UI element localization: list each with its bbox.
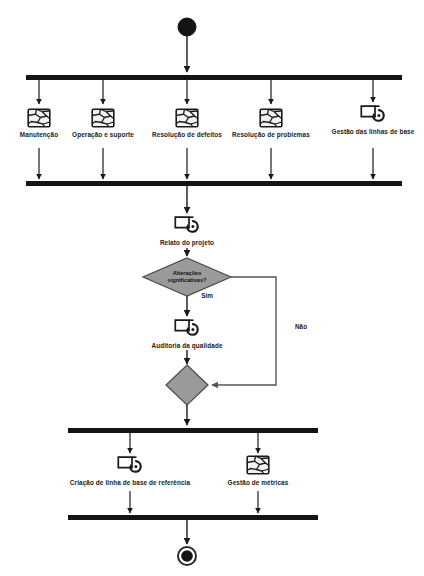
flow-decision-nao <box>212 277 276 385</box>
activity-label-operacao-suporte: Operação e suporte <box>72 131 134 139</box>
activity-diagram-canvas: Manutenção Operação e suporte Resolução … <box>0 0 424 576</box>
process-map-icon[interactable] <box>260 109 282 127</box>
fork-bar-lower <box>68 428 318 433</box>
activity-label-resolucao-defeitos: Resolução de defeitos <box>152 131 222 139</box>
activity-label-auditoria-qualidade: Auditoria da qualidade <box>151 342 222 350</box>
baseline-cycle-icon[interactable] <box>175 320 197 335</box>
edge-label-sim: Sim <box>201 292 213 299</box>
start-node <box>178 18 196 36</box>
baseline-cycle-icon[interactable] <box>175 217 197 232</box>
activity-label-criacao-linha-base: Criação de linha de base de referência <box>70 479 190 487</box>
decision-node[interactable] <box>143 258 231 296</box>
process-map-icon[interactable] <box>28 109 50 127</box>
join-bar-bottom <box>68 515 318 520</box>
activity-label-gestao-metricas: Gestão de métricas <box>228 479 289 487</box>
end-node <box>178 547 196 565</box>
baseline-cycle-icon[interactable] <box>118 457 140 472</box>
baseline-cycle-icon[interactable] <box>361 106 383 121</box>
process-map-icon[interactable] <box>247 456 269 474</box>
process-map-icon[interactable] <box>92 109 114 127</box>
process-map-icon[interactable] <box>176 109 198 127</box>
edge-label-nao: Não <box>295 323 307 330</box>
join-bar-upper <box>26 181 402 186</box>
activity-label-relato-projeto: Relato do projeto <box>160 239 214 247</box>
activity-label-gestao-linhas-base: Gestão das linhas de base <box>332 128 415 136</box>
activity-label-manutencao: Manutenção <box>20 131 58 139</box>
activity-label-resolucao-problemas: Resolução de problemas <box>232 131 310 139</box>
diagram-vector-layer <box>0 0 424 576</box>
merge-node[interactable] <box>166 365 208 405</box>
fork-bar-top <box>26 75 402 80</box>
